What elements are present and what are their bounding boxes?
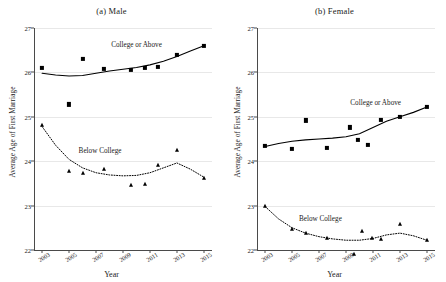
data-point-square bbox=[156, 65, 160, 69]
x-axis-tick-mark bbox=[319, 250, 320, 253]
x-axis-tick-label: 2015 bbox=[422, 251, 436, 263]
data-point-square bbox=[398, 115, 402, 119]
data-point-triangle bbox=[81, 171, 85, 175]
series-annotation: Below College bbox=[79, 147, 122, 155]
data-point-square bbox=[356, 138, 360, 142]
x-axis-tick-label: 2011 bbox=[145, 251, 159, 263]
data-point-square bbox=[263, 144, 267, 148]
data-point-square bbox=[379, 118, 383, 122]
x-axis-tick-mark bbox=[426, 250, 427, 253]
figure-root: (a) Male Average Age of First Marriage 2… bbox=[0, 0, 446, 282]
data-point-square bbox=[325, 146, 329, 150]
panel-title-male: (a) Male bbox=[0, 6, 223, 16]
data-point-square bbox=[175, 53, 179, 57]
data-point-triangle bbox=[370, 235, 374, 239]
panel-female: (b) Female Average Age of First Marriage… bbox=[223, 0, 446, 282]
x-axis-tick-mark bbox=[96, 250, 97, 253]
data-point-square bbox=[425, 105, 429, 109]
y-axis-tick-label: 22 bbox=[24, 247, 31, 254]
x-axis-label-female: Year bbox=[223, 270, 446, 279]
x-axis-tick-mark bbox=[346, 250, 347, 253]
series-annotation: Below College bbox=[299, 215, 342, 223]
data-point-triangle bbox=[129, 183, 133, 187]
y-axis-tick-label: 22 bbox=[247, 247, 254, 254]
panel-male: (a) Male Average Age of First Marriage 2… bbox=[0, 0, 223, 282]
data-point-triangle bbox=[102, 167, 106, 171]
x-axis-tick-mark bbox=[399, 250, 400, 253]
data-point-triangle bbox=[290, 226, 294, 230]
y-axis-tick-label: 26 bbox=[247, 69, 254, 76]
x-axis-tick-label: 2011 bbox=[368, 251, 382, 263]
x-axis-tick-label: 2007 bbox=[314, 251, 328, 263]
data-point-square bbox=[129, 68, 133, 72]
data-point-square bbox=[365, 143, 369, 147]
data-point-triangle bbox=[398, 222, 402, 226]
x-axis-tick-label: 2009 bbox=[118, 251, 132, 263]
data-point-triangle bbox=[263, 203, 267, 207]
x-axis-tick-mark bbox=[372, 250, 373, 253]
x-axis-tick-label: 2013 bbox=[395, 251, 409, 263]
y-axis-tick-label: 27 bbox=[24, 25, 31, 32]
series-annotation: College or Above bbox=[350, 99, 401, 107]
data-point-square bbox=[142, 66, 146, 70]
x-axis-tick-mark bbox=[42, 250, 43, 253]
data-point-square bbox=[102, 67, 106, 71]
x-axis-tick-mark bbox=[265, 250, 266, 253]
data-point-square bbox=[290, 147, 294, 151]
series-annotation: College or Above bbox=[111, 41, 162, 49]
plot-area-male: 2223242526272003200520072009201120132015… bbox=[34, 28, 212, 250]
y-axis-tick-label: 24 bbox=[247, 158, 254, 165]
x-axis-tick-mark bbox=[176, 250, 177, 253]
y-axis-tick-label: 25 bbox=[247, 113, 254, 120]
data-point-triangle bbox=[175, 148, 179, 152]
fit-line-square bbox=[42, 46, 204, 76]
fit-line-square bbox=[265, 107, 427, 147]
panel-title-female: (b) Female bbox=[223, 6, 446, 16]
x-axis-tick-label: 2007 bbox=[91, 251, 105, 263]
x-axis-tick-label: 2005 bbox=[64, 251, 78, 263]
x-axis-tick-label: 2005 bbox=[287, 251, 301, 263]
fit-line-triangle bbox=[265, 206, 427, 240]
data-point-triangle bbox=[425, 238, 429, 242]
x-axis-tick-mark bbox=[203, 250, 204, 253]
data-point-square bbox=[202, 44, 206, 48]
x-axis-label-male: Year bbox=[0, 270, 223, 279]
y-axis-tick-label: 23 bbox=[24, 202, 31, 209]
data-point-triangle bbox=[304, 231, 308, 235]
x-axis-tick-mark bbox=[292, 250, 293, 253]
data-point-triangle bbox=[202, 175, 206, 179]
x-axis-tick-label: 2013 bbox=[172, 251, 186, 263]
y-axis-tick-label: 25 bbox=[24, 113, 31, 120]
data-point-triangle bbox=[352, 251, 356, 255]
data-point-triangle bbox=[325, 235, 329, 239]
plot-area-female: 2223242526272003200520072009201120132015… bbox=[257, 28, 435, 250]
y-axis-label-male: Average Age of First Marriage bbox=[9, 57, 17, 207]
x-axis-tick-label: 2003 bbox=[37, 251, 51, 263]
x-axis-tick-mark bbox=[149, 250, 150, 253]
data-point-square bbox=[67, 102, 71, 106]
fit-curves bbox=[257, 28, 435, 250]
y-axis-tick-label: 26 bbox=[24, 69, 31, 76]
y-axis-tick-label: 24 bbox=[24, 158, 31, 165]
data-point-square bbox=[40, 66, 44, 70]
y-axis-tick-label: 27 bbox=[247, 25, 254, 32]
x-axis-tick-label: 2003 bbox=[260, 251, 274, 263]
y-axis-tick-label: 23 bbox=[247, 202, 254, 209]
data-point-square bbox=[80, 57, 84, 61]
data-point-square bbox=[303, 118, 307, 122]
x-axis-tick-mark bbox=[69, 250, 70, 253]
fit-curves bbox=[34, 28, 212, 250]
y-axis-label-female: Average Age of First Marriage bbox=[234, 57, 242, 207]
x-axis-tick-label: 2015 bbox=[199, 251, 213, 263]
data-point-square bbox=[348, 125, 352, 129]
data-point-triangle bbox=[379, 237, 383, 241]
data-point-triangle bbox=[143, 182, 147, 186]
data-point-triangle bbox=[40, 123, 44, 127]
data-point-triangle bbox=[360, 229, 364, 233]
data-point-triangle bbox=[156, 163, 160, 167]
x-axis-tick-mark bbox=[123, 250, 124, 253]
data-point-triangle bbox=[67, 169, 71, 173]
